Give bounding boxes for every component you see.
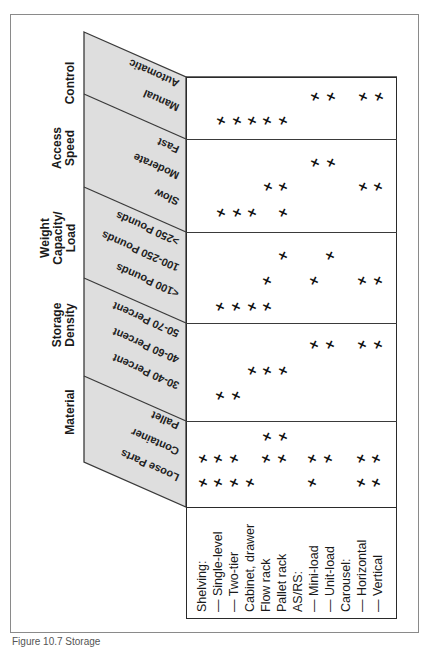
section-divider xyxy=(186,421,397,422)
row-label-unit-load: — Unit-load xyxy=(323,546,337,612)
row-label-two-tier: — Two-tier xyxy=(227,552,241,612)
row-label-asrs: AS/RS: xyxy=(291,571,305,612)
row-label-cabinet-drawer: Cabinet, drawer xyxy=(243,524,257,612)
group-label-line: Speed xyxy=(63,130,77,166)
group-label-storage-density: Storage Density xyxy=(51,303,77,348)
section-divider xyxy=(186,139,397,140)
matrix-body xyxy=(186,77,397,508)
group-label-line: Weight xyxy=(38,218,52,258)
row-label-carousel: Carousel: xyxy=(339,559,353,613)
row-label-horizontal: — Horizontal xyxy=(355,540,369,612)
row-label-pallet-rack: Pallet rack xyxy=(275,554,289,612)
group-label-line: Access xyxy=(50,127,64,169)
row-label-flow-rack: Flow rack xyxy=(259,559,273,612)
row-label-single-level: — Single-level xyxy=(211,531,225,612)
group-label-material: Material xyxy=(64,389,77,434)
group-label-line: Capacity/ xyxy=(51,211,65,264)
section-divider xyxy=(186,323,397,324)
group-label-line: Storage xyxy=(50,303,64,348)
group-label-weight: Weight Capacity/ Load xyxy=(39,211,78,264)
row-label-vertical: — Vertical xyxy=(371,555,385,612)
group-label-line: Control xyxy=(63,62,77,105)
figure-caption: Figure 10.7 Storage xyxy=(12,636,100,647)
group-label-control: Control xyxy=(64,62,77,105)
section-divider xyxy=(186,232,397,233)
group-label-line: Material xyxy=(63,389,77,434)
group-label-access-speed: Access Speed xyxy=(51,127,77,169)
row-label-shelving: Shelving: xyxy=(195,561,209,612)
group-label-line: Density xyxy=(63,303,77,346)
row-label-mini-load: — Mini-load xyxy=(307,545,321,612)
group-label-line: Load xyxy=(64,224,78,253)
